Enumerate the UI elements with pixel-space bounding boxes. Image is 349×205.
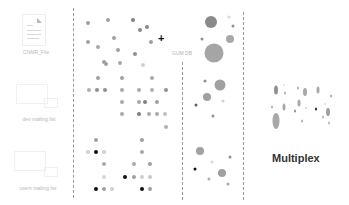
node-dot — [150, 88, 154, 92]
node-dot — [103, 88, 107, 92]
node-dot — [104, 62, 108, 66]
cluster-circle — [205, 44, 224, 63]
mailing-list-badge-icon — [44, 98, 58, 108]
source-label: users mailing list — [8, 185, 68, 191]
cluster-circle — [229, 156, 232, 159]
multiplex-node — [283, 84, 285, 86]
node-dot — [86, 40, 90, 44]
cluster-circle — [227, 183, 230, 186]
multiplex-node — [301, 120, 303, 123]
multiplex-node — [324, 103, 326, 105]
multiplex-node — [322, 116, 324, 119]
node-dot — [132, 162, 136, 166]
node-dot — [94, 187, 98, 191]
cluster-circle — [195, 104, 198, 107]
cluster-circle — [208, 178, 211, 181]
node-dot — [155, 100, 159, 104]
multiplex-node — [330, 95, 332, 98]
node-dot — [120, 88, 124, 92]
node-dot — [102, 162, 106, 166]
node-dot — [141, 63, 145, 67]
node-dot — [132, 175, 136, 179]
node-dot — [102, 150, 106, 154]
source-dev-mailing-list: dev mailing list — [10, 78, 68, 128]
db-label: GUM DB — [172, 50, 192, 56]
node-dot — [147, 112, 151, 116]
node-dot — [120, 76, 124, 80]
node-dot — [137, 100, 141, 104]
cluster-circle — [228, 16, 231, 19]
node-dot — [149, 40, 153, 44]
mailing-list-badge-icon — [44, 167, 58, 177]
node-dot — [148, 162, 152, 166]
node-dot — [95, 88, 99, 92]
right-dashed-divider — [243, 12, 244, 200]
multiplex-node — [305, 107, 307, 109]
node-dot — [123, 175, 127, 179]
node-dot — [131, 18, 135, 22]
node-dot — [133, 52, 137, 56]
left-dashed-divider — [73, 8, 74, 198]
mailing-list-icon — [14, 151, 46, 171]
node-dot — [94, 150, 98, 154]
cluster-circle — [218, 169, 226, 177]
node-dot — [163, 112, 167, 116]
node-dot — [140, 150, 144, 154]
node-dot — [137, 88, 141, 92]
multiplex-node — [315, 108, 317, 111]
node-dot — [140, 175, 144, 179]
multiplex-node — [283, 104, 286, 111]
multiplex-node — [297, 87, 299, 90]
cluster-circle — [201, 38, 204, 41]
source-users-mailing-list: users mailing list — [8, 143, 68, 195]
cluster-circle — [222, 100, 225, 103]
node-dot — [94, 138, 98, 142]
node-dot — [102, 175, 106, 179]
multiplex-node — [273, 113, 280, 129]
node-dot — [96, 45, 100, 49]
multiplex-node — [271, 106, 273, 109]
cluster-circle — [232, 25, 235, 28]
cluster-circle — [205, 16, 217, 28]
node-dot — [96, 76, 100, 80]
node-dot — [110, 187, 114, 191]
cluster-circle — [203, 93, 211, 101]
cluster-circle — [196, 147, 204, 155]
node-dot — [106, 18, 110, 22]
node-dot — [116, 48, 120, 52]
node-dot — [87, 88, 91, 92]
node-dot — [155, 112, 159, 116]
cluster-circle — [194, 168, 197, 171]
node-dot — [118, 61, 122, 65]
cluster-circle — [215, 80, 226, 91]
plus-icon: + — [158, 33, 164, 44]
source-label: CNMR_File — [10, 49, 62, 55]
node-dot — [150, 76, 154, 80]
node-dot — [120, 100, 124, 104]
source-label: dev mailing list — [10, 116, 68, 122]
node-dot — [112, 36, 116, 40]
multiplex-node — [298, 100, 301, 107]
cluster-circle — [226, 35, 234, 43]
node-dot — [140, 187, 144, 191]
multiplex-node — [294, 110, 296, 113]
node-dot — [86, 21, 90, 25]
node-dot — [164, 88, 168, 92]
node-dot — [145, 25, 149, 29]
node-dot — [138, 28, 142, 32]
node-dot — [86, 150, 90, 154]
cluster-circle — [211, 161, 214, 164]
node-dot — [148, 175, 152, 179]
node-dot — [148, 187, 152, 191]
node-dot — [137, 112, 141, 116]
source-cnmr-file: CNMR_File — [10, 8, 62, 64]
node-dot — [140, 138, 144, 142]
node-dot — [102, 187, 106, 191]
node-dot — [143, 100, 147, 104]
multiplex-node — [274, 86, 278, 95]
node-dot — [164, 125, 168, 129]
multiplex-node — [303, 88, 307, 96]
cluster-circle — [212, 115, 215, 118]
cluster-circle — [204, 80, 207, 83]
multiplex-node — [328, 122, 330, 125]
